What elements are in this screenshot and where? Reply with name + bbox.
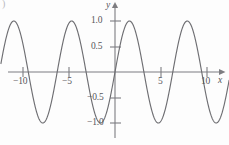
x-tick-label--10: −10 bbox=[13, 76, 27, 86]
y-tick-label--0.5: −0.5 bbox=[87, 92, 103, 102]
x-tick-label-5: 5 bbox=[158, 76, 163, 86]
x-tick-label-10: 10 bbox=[201, 76, 210, 86]
x-tick-label--5: −5 bbox=[62, 76, 72, 86]
x-axis-label: x bbox=[218, 75, 222, 85]
y-tick-label-0.5: 0.5 bbox=[91, 41, 102, 51]
y-tick-label-1.0: 1.0 bbox=[91, 15, 102, 25]
plot-canvas bbox=[0, 0, 229, 145]
sine-wave-plot: ) −10 −5 5 10 1.0 0.5 −0.5 −1.0 x y bbox=[0, 0, 229, 145]
axes-group bbox=[8, 2, 226, 138]
y-axis-arrowhead bbox=[112, 2, 118, 8]
y-tick-label--1.0: −1.0 bbox=[87, 117, 103, 127]
y-axis-label: y bbox=[106, 0, 110, 10]
